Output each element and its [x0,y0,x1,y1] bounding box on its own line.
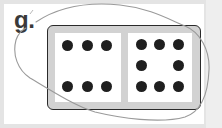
pip [136,81,147,92]
problem-label: g. [14,8,34,32]
pip [173,81,184,92]
pip [101,40,112,51]
pip [62,81,73,92]
pip [154,39,165,50]
pip [82,40,93,51]
pip [101,81,112,92]
pip [82,81,93,92]
pip [136,60,147,71]
pip [62,40,73,51]
domino-right-half [128,33,192,102]
pip [173,39,184,50]
pip [136,39,147,50]
domino [47,25,201,110]
pip [154,81,165,92]
domino-left-half [55,33,121,102]
pip [173,60,184,71]
page-edge [206,0,222,128]
